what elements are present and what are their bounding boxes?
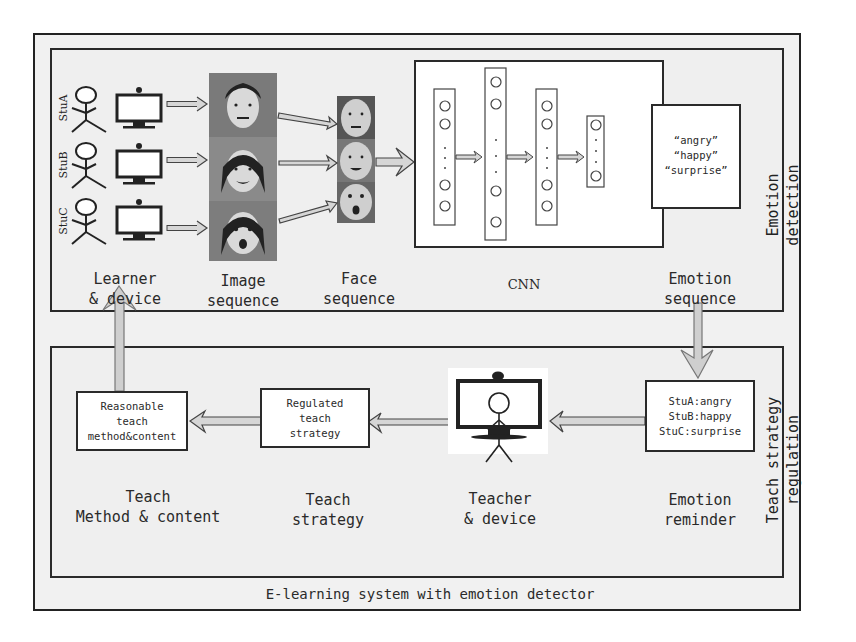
teach-method-content-label: Teach Method & content [58, 487, 238, 527]
strategy-box-line: teach [262, 411, 368, 426]
emotion-output-line: “happy” [653, 148, 739, 163]
method-content-box: Reasonable teach method&content [76, 391, 188, 451]
emotion-sequence-label: Emotion sequence [640, 269, 760, 309]
teach-strategy-regulation-title: Teach strategy regulation [763, 370, 803, 550]
emotion-reminder-label: Emotion reminder [640, 490, 760, 530]
face-sequence-label: Face sequence [304, 269, 414, 309]
teacher-device-icon [448, 370, 558, 480]
hollow-arrow-icon [681, 303, 713, 378]
hollow-arrow-icon [190, 411, 262, 432]
method-box-line: Reasonable [78, 399, 186, 414]
strategy-box-line: Regulated [262, 396, 368, 411]
hollow-arrow-icon [376, 148, 414, 176]
hollow-arrow-icon [167, 221, 207, 235]
emotion-output-box: “angry” “happy” “surprise” [651, 104, 741, 209]
cnn-layers [414, 60, 664, 248]
reminder-line: StuC:surprise [647, 424, 753, 439]
regulated-strategy-box: Regulated teach strategy [260, 388, 370, 448]
strategy-box-line: strategy [262, 426, 368, 441]
hollow-arrow-icon [368, 413, 450, 432]
method-box-line: teach [78, 414, 186, 429]
emotion-output-line: “surprise” [653, 163, 739, 178]
cnn-label: CNN [484, 275, 564, 295]
emotion-output-line: “angry” [653, 133, 739, 148]
reminder-line: StuA:angry [647, 394, 753, 409]
hollow-arrow-icon [167, 153, 207, 167]
reminder-line: StuB:happy [647, 409, 753, 424]
image-sequence-label: Image sequence [188, 271, 298, 311]
hollow-arrow-icon [278, 113, 337, 223]
system-title: E-learning system with emotion detector [230, 584, 630, 604]
emotion-reminder-box: StuA:angry StuB:happy StuC:surprise [645, 380, 755, 452]
emotion-detection-title: Emotion detection [763, 145, 803, 265]
teacher-device-label: Teacher & device [440, 489, 560, 529]
hollow-arrow-icon [550, 411, 645, 432]
learner-device-label: Learner & device [70, 269, 180, 309]
teach-strategy-label: Teach strategy [268, 490, 388, 530]
method-box-line: method&content [78, 429, 186, 444]
hollow-arrow-icon [167, 97, 207, 111]
